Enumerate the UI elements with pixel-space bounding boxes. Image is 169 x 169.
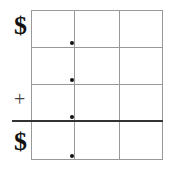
grid-row-divider bbox=[31, 47, 163, 48]
decimal-point bbox=[70, 41, 74, 45]
grid-row-divider bbox=[31, 84, 163, 85]
grid-frame bbox=[31, 10, 163, 160]
grid-column-divider bbox=[119, 10, 120, 160]
dollar-sign-result: $ bbox=[14, 129, 27, 155]
decimal-point bbox=[70, 115, 74, 119]
plus-sign: + bbox=[14, 89, 25, 109]
dollar-sign-top: $ bbox=[14, 13, 27, 39]
decimal-point bbox=[70, 78, 74, 82]
grid-column-divider bbox=[74, 10, 75, 160]
decimal-point bbox=[70, 154, 74, 158]
sum-line bbox=[12, 120, 163, 122]
